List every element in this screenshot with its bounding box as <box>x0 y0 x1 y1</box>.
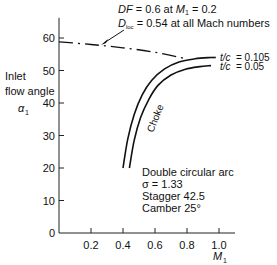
choke-label: Choke <box>145 102 166 133</box>
blade-info-line: Stagger 42.5 <box>142 190 205 202</box>
x-tick-label: 0.8 <box>179 239 194 251</box>
y-tick-label: 50 <box>43 65 55 77</box>
annotation-dloc: Dloc = 0.54 at all Mach numbers <box>118 17 270 30</box>
y-axis-label-line1: Inlet <box>5 70 26 82</box>
chart: 01020304050600.20.40.60.81.0 Inletflow a… <box>0 0 277 265</box>
y-axis-label-line2: flow angle <box>5 85 55 97</box>
y-axis-label-symbol: α <box>18 102 25 114</box>
axes: 01020304050600.20.40.60.81.0 <box>43 18 235 251</box>
y-axis-label-symbol-sub: 1 <box>25 109 29 116</box>
y-tick-label: 30 <box>43 130 55 142</box>
annotation-df: DF = 0.6 at M1 = 0.2 <box>118 3 217 16</box>
annotation-arrow-head <box>101 39 108 45</box>
blade-info-line: Camber 25° <box>142 202 201 214</box>
y-tick-label: 10 <box>43 195 55 207</box>
annotation-arrow <box>104 30 124 43</box>
curve-label-prefix: t/c <box>220 61 231 72</box>
x-axis-label: M <box>213 250 223 262</box>
x-tick-label: 0.2 <box>83 239 98 251</box>
y-tick-label: 20 <box>43 162 55 174</box>
y-tick-label: 0 <box>49 227 55 239</box>
series-line-1 <box>123 58 211 169</box>
x-axis-label-sub: 1 <box>223 257 227 264</box>
x-tick-label: 0.4 <box>115 239 130 251</box>
x-tick-label: 0.6 <box>147 239 162 251</box>
blade-info-line: σ = 1.33 <box>142 178 183 190</box>
y-tick-label: 60 <box>43 32 55 44</box>
series-group <box>59 42 216 168</box>
blade-info-line: Double circular arc <box>142 166 234 178</box>
series-line-0 <box>59 42 184 58</box>
y-tick-label: 40 <box>43 97 55 109</box>
series-line-2 <box>129 66 211 168</box>
curve-label-value: = 0.05 <box>236 61 265 72</box>
